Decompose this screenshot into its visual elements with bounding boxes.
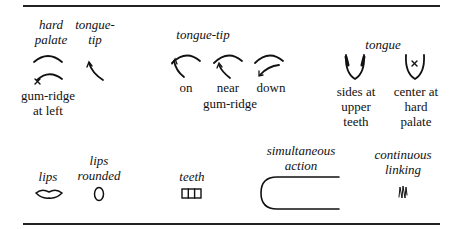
gum-ridge-at-left-line1: gum-ridge: [15, 88, 81, 103]
continuous-linking-line2: linking: [372, 162, 434, 177]
tongue-sides-label: sides at upper teeth: [331, 84, 381, 129]
tongue-center-line3: palate: [390, 114, 442, 129]
top-rule: [23, 5, 440, 7]
tongue-tip-down-icon: [253, 51, 285, 79]
hard-palate-label: hard palate: [30, 17, 72, 47]
gum-ridge-at-left-icon: [33, 70, 63, 86]
tongue-tip-near-icon: [212, 51, 244, 79]
tongue-center-label: center at hard palate: [390, 84, 442, 129]
tongue-sides-icon: [343, 53, 367, 81]
simultaneous-action-label: simultaneous action: [261, 143, 341, 173]
gum-ridge-footer-label: gum-ridge: [197, 96, 263, 111]
tongue-center-icon: [403, 53, 427, 81]
gum-ridge-at-left-line2: at left: [15, 103, 81, 118]
tongue-tip-label-line1: tongue-: [74, 17, 116, 32]
hard-palate-label-line1: hard: [30, 17, 72, 32]
tongue-tip-on-icon: [170, 51, 202, 79]
tongue-tip-down-label: down: [251, 80, 291, 95]
lips-rounded-label: lips rounded: [74, 153, 124, 183]
continuous-linking-line1: continuous: [372, 147, 434, 162]
lips-label: lips: [33, 169, 63, 184]
tongue-group-heading: tongue: [360, 37, 406, 52]
teeth-grid-icon: [181, 188, 203, 200]
tongue-sides-line2: upper: [331, 99, 381, 114]
simultaneous-action-line2: action: [261, 158, 341, 173]
tongue-sides-line1: sides at: [331, 84, 381, 99]
hard-palate-arc-icon: [33, 52, 63, 64]
tongue-tip-label: tongue- tip: [74, 17, 116, 47]
hard-palate-label-line2: palate: [30, 32, 72, 47]
tongue-tip-arrow-icon: [86, 60, 106, 82]
tongue-center-line2: hard: [390, 99, 442, 114]
lips-rounded-line1: lips: [74, 153, 124, 168]
tongue-center-line1: center at: [390, 84, 442, 99]
lips-icon: [35, 188, 63, 200]
tongue-tip-on-label: on: [170, 80, 202, 95]
tongue-sides-line3: teeth: [331, 114, 381, 129]
lips-rounded-line2: rounded: [74, 168, 124, 183]
simultaneous-action-line1: simultaneous: [261, 143, 341, 158]
gum-ridge-at-left-label: gum-ridge at left: [15, 88, 81, 118]
continuous-linking-label: continuous linking: [372, 147, 434, 177]
teeth-label: teeth: [172, 169, 212, 184]
tongue-tip-near-label: near: [210, 80, 246, 95]
tongue-tip-group-heading: tongue-tip: [170, 27, 236, 42]
simultaneous-action-bracket-icon: [259, 175, 341, 211]
continuous-linking-zigzag-icon: [397, 183, 409, 201]
bottom-rule: [23, 223, 440, 225]
tongue-tip-label-line2: tip: [74, 32, 116, 47]
lips-rounded-oval-icon: [92, 186, 106, 202]
